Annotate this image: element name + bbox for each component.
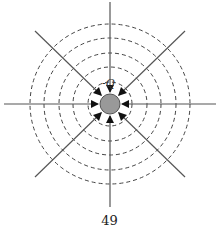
- arrow-icon: [91, 100, 99, 108]
- negative-charge: [100, 94, 120, 114]
- negative-charge-field-diagram: -Q: [0, 0, 219, 210]
- arrow-icon: [121, 100, 129, 108]
- page-number: 49: [0, 213, 219, 228]
- charge-label: -Q: [102, 77, 115, 90]
- field-line-top-left: [35, 31, 101, 95]
- arrow-icon: [106, 115, 114, 123]
